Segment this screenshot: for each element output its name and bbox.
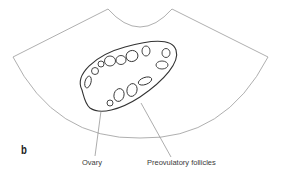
follicle bbox=[156, 61, 168, 69]
follicle bbox=[125, 82, 138, 97]
follicle bbox=[84, 75, 93, 88]
follicle bbox=[92, 68, 99, 75]
follicle bbox=[162, 49, 170, 58]
ultrasound-diagram bbox=[0, 0, 281, 176]
follicles-label: Preovulatory follicles bbox=[147, 158, 216, 167]
follicle bbox=[98, 61, 104, 67]
follicle bbox=[124, 49, 139, 63]
follicle bbox=[107, 100, 113, 106]
follicles bbox=[84, 46, 170, 106]
panel-letter: b bbox=[21, 143, 27, 157]
follicle bbox=[116, 56, 126, 65]
follicle bbox=[105, 56, 116, 66]
ultrasound-sector-outline bbox=[13, 9, 268, 138]
follicle bbox=[112, 87, 125, 102]
follicles-leader-line bbox=[141, 103, 171, 157]
ovary-label: Ovary bbox=[82, 158, 102, 167]
follicle bbox=[137, 75, 153, 86]
follicle bbox=[142, 46, 150, 56]
